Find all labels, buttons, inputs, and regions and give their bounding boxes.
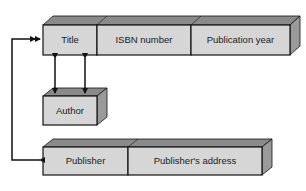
link-publisher-title bbox=[12, 36, 40, 160]
double-arrowhead-icon bbox=[30, 36, 36, 42]
record-diagram: Title ISBN number Publication year Autho… bbox=[0, 0, 306, 191]
field-author-label: Author bbox=[56, 105, 84, 116]
field-publisher-label: Publisher bbox=[66, 155, 106, 166]
book-record: Title ISBN number Publication year bbox=[43, 16, 300, 55]
field-publishers-address-label: Publisher's address bbox=[154, 155, 237, 166]
field-isbn-number-label: ISBN number bbox=[115, 34, 172, 45]
author-record: Author bbox=[43, 88, 107, 125]
field-title-label: Title bbox=[61, 34, 79, 45]
field-publication-year-label: Publication year bbox=[207, 34, 275, 45]
publisher-record: Publisher Publisher's address bbox=[43, 139, 272, 175]
